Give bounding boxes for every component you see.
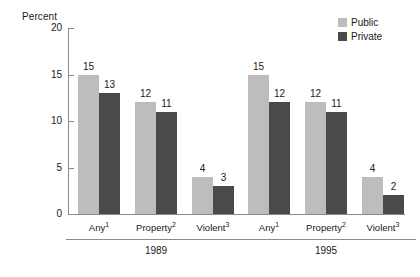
category-footnote-marker: 3 bbox=[225, 221, 229, 228]
bar-value-label: 11 bbox=[152, 99, 181, 109]
y-axis-tick-label-text: 10 bbox=[24, 116, 62, 126]
legend-label: Private bbox=[351, 31, 382, 42]
x-axis-line bbox=[68, 214, 405, 215]
y-axis-tick bbox=[68, 28, 74, 29]
y-axis-tick-label-text: 15 bbox=[24, 70, 62, 80]
bar-value-label: 11 bbox=[322, 99, 351, 109]
legend-swatch-icon bbox=[338, 32, 347, 41]
bar bbox=[269, 102, 290, 214]
y-axis-tick-label: 10 bbox=[24, 116, 62, 126]
category-footnote-marker: 1 bbox=[275, 221, 279, 228]
bar-value-label: 2 bbox=[379, 182, 408, 192]
y-axis-tick-label: 15 bbox=[24, 70, 62, 80]
chart-legend: PublicPrivate bbox=[338, 16, 382, 44]
y-axis-tick-label-text: 5 bbox=[24, 163, 62, 173]
bar-value-label: 3 bbox=[209, 173, 238, 183]
category-footnote-marker: 1 bbox=[105, 221, 109, 228]
bar bbox=[135, 102, 156, 214]
y-axis-tick-label: 0 bbox=[24, 209, 62, 219]
legend-item: Public bbox=[338, 16, 382, 29]
bar bbox=[213, 186, 234, 214]
legend-label: Public bbox=[351, 17, 378, 28]
group-year-label: 1989 bbox=[66, 245, 246, 256]
bar-value-label: 4 bbox=[358, 164, 387, 174]
y-axis-tick-label-text: 0 bbox=[24, 209, 62, 219]
y-axis-tick-label: 20 bbox=[24, 23, 62, 33]
group-year-label: 1995 bbox=[236, 245, 416, 256]
category-footnote-marker: 3 bbox=[395, 221, 399, 228]
y-axis-tick bbox=[68, 121, 74, 122]
bar bbox=[383, 195, 404, 214]
legend-swatch-icon bbox=[338, 18, 347, 27]
bar bbox=[326, 112, 347, 214]
y-axis-tick bbox=[68, 75, 74, 76]
group-bracket-rule bbox=[236, 239, 416, 240]
bar bbox=[305, 102, 326, 214]
y-axis-tick-label-text: 20 bbox=[24, 23, 62, 33]
y-axis-tick-label: 5 bbox=[24, 163, 62, 173]
bar bbox=[78, 75, 99, 215]
bar-value-label: 15 bbox=[244, 62, 273, 72]
bar-value-label: 15 bbox=[74, 62, 103, 72]
bar bbox=[99, 93, 120, 214]
legend-item: Private bbox=[338, 30, 382, 43]
y-axis-tick bbox=[68, 214, 74, 215]
bar-value-label: 12 bbox=[265, 89, 294, 99]
bar-value-label: 13 bbox=[95, 80, 124, 90]
bar bbox=[156, 112, 177, 214]
x-axis-category-label: Violent3 bbox=[344, 222, 420, 233]
group-bracket-rule bbox=[66, 239, 246, 240]
y-axis-tick bbox=[68, 168, 74, 169]
